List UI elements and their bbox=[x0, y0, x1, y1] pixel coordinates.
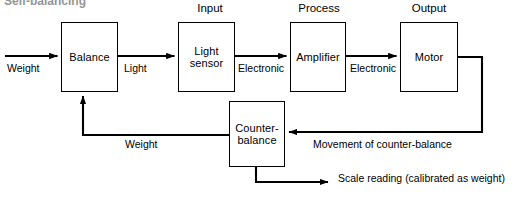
section-title-input: Input bbox=[181, 2, 239, 15]
node-counter-balance[interactable]: Counter- balance bbox=[229, 101, 285, 167]
edge-label-movement-of-counter-balance: Movement of counter-balance bbox=[313, 138, 452, 150]
section-title-output: Output bbox=[398, 2, 460, 15]
node-light-sensor[interactable]: Light sensor bbox=[178, 22, 235, 92]
node-balance[interactable]: Balance bbox=[61, 22, 118, 92]
edge-counter-balance-to-balance bbox=[83, 96, 229, 135]
edge-label-weight-input: Weight bbox=[7, 62, 40, 74]
edge-label-electronic-2: Electronic bbox=[350, 62, 396, 74]
section-title-process: Process bbox=[288, 2, 350, 15]
edge-counter-balance-to-scale-reading bbox=[256, 167, 328, 182]
node-counter-balance-label: Counter- balance bbox=[235, 122, 279, 146]
node-amplifier-label: Amplifier bbox=[296, 51, 340, 63]
edge-label-electronic-1: Electronic bbox=[238, 62, 284, 74]
edge-label-weight-feedback: Weight bbox=[125, 138, 158, 150]
node-motor[interactable]: Motor bbox=[400, 22, 458, 92]
block-diagram: Self-balancing Input Process Output bbox=[0, 0, 522, 198]
edge-label-scale-reading: Scale reading (calibrated as weight) bbox=[338, 172, 505, 184]
node-light-sensor-label: Light sensor bbox=[190, 45, 224, 69]
node-amplifier[interactable]: Amplifier bbox=[290, 22, 346, 92]
node-balance-label: Balance bbox=[69, 51, 109, 63]
node-motor-label: Motor bbox=[415, 51, 444, 63]
edge-label-light: Light bbox=[124, 62, 147, 74]
